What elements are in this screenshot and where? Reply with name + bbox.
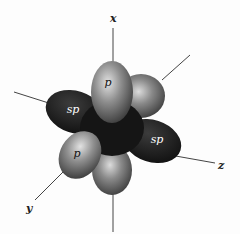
orbital-drawing: [0, 0, 240, 234]
back-axis-line: [162, 55, 190, 80]
z-axis-label: z: [218, 160, 224, 171]
p-lobe-top: [91, 61, 133, 123]
y-axis-line: [35, 172, 63, 200]
y-axis-label: y: [26, 203, 32, 214]
orbital-diagram: x y z p sp sp p: [0, 0, 240, 234]
p-lobe-front-left-label: p: [73, 148, 80, 159]
sp-lobe-left-label: sp: [67, 104, 80, 115]
sp-lobe-right-label: sp: [151, 134, 164, 145]
x-axis-label: x: [110, 13, 117, 24]
p-lobe-top-label: p: [104, 77, 111, 88]
